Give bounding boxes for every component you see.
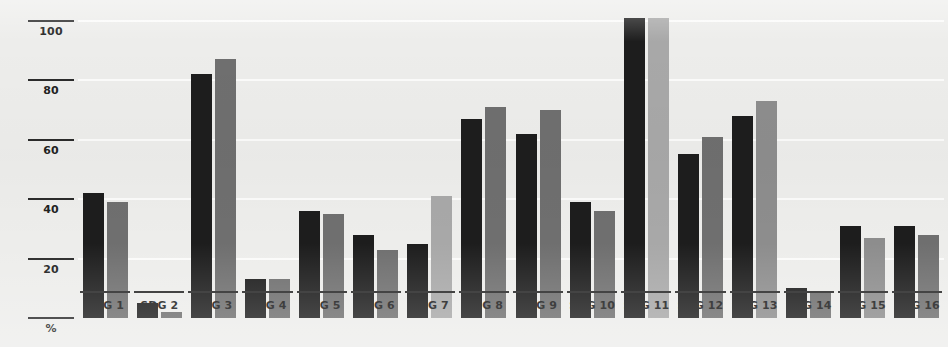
bar-pair [619,21,673,318]
x-axis-label-sdg-13: SDG 13 [728,299,782,312]
bar-pair [673,21,727,318]
bar-group-sdg-14[interactable]: SDG 14 [782,21,836,318]
bar-pair [403,21,457,318]
y-tick-label-20: 20 [28,263,74,276]
x-axis-label-sdg-10: SDG 10 [565,299,619,312]
x-axis-label-sdg-3: SDG 3 [186,299,240,312]
bar-pair [782,21,836,318]
x-tick-rule [134,291,184,293]
bar-series-light-sdg-13[interactable] [756,101,777,318]
x-axis-label-sdg-6: SDG 6 [349,299,403,312]
y-tick-rule-20 [28,258,74,260]
bar-group-sdg-7[interactable]: SDG 7 [403,21,457,318]
x-tick-rule [188,291,238,293]
x-tick-rule [459,291,509,293]
baseline-rule [28,317,74,319]
x-tick-rule [297,291,347,293]
bar-group-sdg-8[interactable]: SDG 8 [457,21,511,318]
bar-series-light-sdg-8[interactable] [485,107,506,318]
x-tick-rule [351,291,401,293]
x-tick-rule [80,291,130,293]
x-tick-rule [892,291,942,293]
x-tick-rule [567,291,617,293]
bar-pair [890,21,944,318]
bar-series-light-sdg-11[interactable] [648,18,669,318]
x-axis-label-sdg-1: SDG 1 [78,299,132,312]
plot-area: 20406080100 SDG 1SDG 2SDG 3SDG 4SDG 5SDG… [0,0,948,347]
x-axis-label-sdg-9: SDG 9 [511,299,565,312]
bar-group-sdg-3[interactable]: SDG 3 [186,21,240,318]
x-tick-rule [405,291,455,293]
x-tick-rule [242,291,292,293]
bar-group-sdg-11[interactable]: SDG 11 [619,21,673,318]
bar-series-light-sdg-9[interactable] [540,110,561,318]
bar-group-sdg-9[interactable]: SDG 9 [511,21,565,318]
y-axis-unit-label: % [28,322,74,335]
y-tick-rule-40 [28,198,74,200]
bar-group-sdg-13[interactable]: SDG 13 [728,21,782,318]
bar-pair [295,21,349,318]
y-tick-label-40: 40 [28,203,74,216]
bar-pair [565,21,619,318]
bar-series-dark-sdg-11[interactable] [624,18,645,318]
bar-pair [240,21,294,318]
bar-group-sdg-1[interactable]: SDG 1 [78,21,132,318]
bar-pair [349,21,403,318]
bar-group-sdg-10[interactable]: SDG 10 [565,21,619,318]
bar-pair [511,21,565,318]
x-tick-rule [730,291,780,293]
x-axis-label-sdg-15: SDG 15 [836,299,890,312]
x-axis-label-sdg-7: SDG 7 [403,299,457,312]
bar-group-sdg-5[interactable]: SDG 5 [295,21,349,318]
bar-series-dark-sdg-12[interactable] [678,154,699,318]
bar-series-light-sdg-2[interactable] [161,312,182,318]
sdg-bar-chart: 20406080100 SDG 1SDG 2SDG 3SDG 4SDG 5SDG… [0,0,948,347]
bar-series-dark-sdg-8[interactable] [461,119,482,318]
bar-group-sdg-15[interactable]: SDG 15 [836,21,890,318]
y-tick-rule-60 [28,139,74,141]
x-tick-rule [675,291,725,293]
bar-group-sdg-4[interactable]: SDG 4 [240,21,294,318]
x-axis-label-sdg-12: SDG 12 [673,299,727,312]
y-tick-label-100: 100 [28,25,74,38]
x-axis-label-sdg-4: SDG 4 [240,299,294,312]
bar-pair [78,21,132,318]
y-tick-label-60: 60 [28,144,74,157]
bar-group-sdg-12[interactable]: SDG 12 [673,21,727,318]
x-tick-rule [621,291,671,293]
bar-series-light-sdg-3[interactable] [215,59,236,318]
bar-pair [132,21,186,318]
x-axis-label-sdg-14: SDG 14 [782,299,836,312]
y-tick-rule-100 [28,20,74,22]
y-tick-label-80: 80 [28,84,74,97]
x-axis-label-sdg-11: SDG 11 [619,299,673,312]
bar-group-sdg-6[interactable]: SDG 6 [349,21,403,318]
x-axis-label-sdg-16: SDG 16 [890,299,944,312]
x-axis-label-sdg-2: SDG 2 [132,299,186,312]
x-tick-rule [838,291,888,293]
bar-pair [457,21,511,318]
bar-pair [186,21,240,318]
x-tick-rule [513,291,563,293]
bar-group-sdg-2[interactable]: SDG 2 [132,21,186,318]
bar-pair [728,21,782,318]
x-axis-label-sdg-8: SDG 8 [457,299,511,312]
y-tick-rule-80 [28,79,74,81]
bar-series-dark-sdg-13[interactable] [732,116,753,318]
bar-pair [836,21,890,318]
x-axis-label-sdg-5: SDG 5 [295,299,349,312]
bar-group-sdg-16[interactable]: SDG 16 [890,21,944,318]
x-tick-rule [784,291,834,293]
bar-series-dark-sdg-3[interactable] [191,74,212,318]
